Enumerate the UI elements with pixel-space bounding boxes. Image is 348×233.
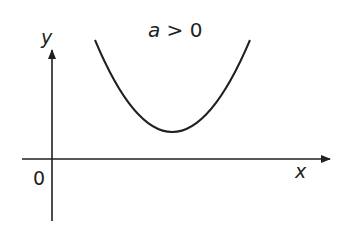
condition-label: a > 0: [148, 20, 202, 40]
condition-rest: > 0: [160, 18, 202, 42]
y-axis-label: y: [41, 28, 52, 47]
parabola-curve: [95, 40, 250, 132]
condition-var: a: [148, 18, 160, 42]
x-axis-label: x: [295, 162, 306, 181]
origin-label: 0: [33, 169, 45, 188]
